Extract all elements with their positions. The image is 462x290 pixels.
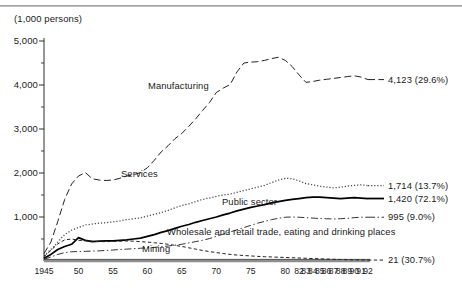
y-tick-label: 5,000 bbox=[0, 35, 38, 46]
x-tick-label: 92 bbox=[354, 266, 382, 276]
plot-area bbox=[0, 0, 462, 290]
series-inline-label-services: Services bbox=[121, 168, 158, 179]
x-tick-label: 70 bbox=[202, 266, 230, 276]
series-end-label: 1,714 (13.7%) bbox=[388, 180, 448, 191]
x-tick-label: 50 bbox=[64, 266, 92, 276]
series-line-services bbox=[44, 178, 368, 255]
series-end-label: 4,123 (29.6%) bbox=[388, 74, 448, 85]
series-end-label: 21 (30.7%) bbox=[388, 254, 435, 265]
y-tick-label: 1,000 bbox=[0, 211, 38, 222]
chart-figure: (1,000 persons) 5,0004,0003,0002,0001,00… bbox=[0, 0, 462, 290]
x-tick-label: 65 bbox=[168, 266, 196, 276]
series-line-wholesale-and-retail-trade-eating-and-drinking-places bbox=[44, 217, 368, 259]
x-tick-label: 75 bbox=[237, 266, 265, 276]
y-tick-label: 2,000 bbox=[0, 167, 38, 178]
series-end-label: 1,420 (72.1%) bbox=[388, 193, 448, 204]
x-tick-label: 60 bbox=[133, 266, 161, 276]
series-inline-label-mining: Mining bbox=[142, 243, 170, 254]
series-inline-label-manufacturing: Manufacturing bbox=[148, 80, 209, 91]
y-tick-label: 4,000 bbox=[0, 79, 38, 90]
series-inline-label-wholesale: Wholesale and retail trade, eating and d… bbox=[167, 226, 395, 237]
y-tick-label: 3,000 bbox=[0, 123, 38, 134]
series-inline-label-public-sector: Public sector bbox=[222, 196, 277, 207]
x-tick-label: 1945 bbox=[30, 266, 58, 276]
series-end-label: 995 (9.0%) bbox=[388, 211, 435, 222]
x-tick-label: 55 bbox=[99, 266, 127, 276]
chart-canvas bbox=[0, 0, 462, 290]
